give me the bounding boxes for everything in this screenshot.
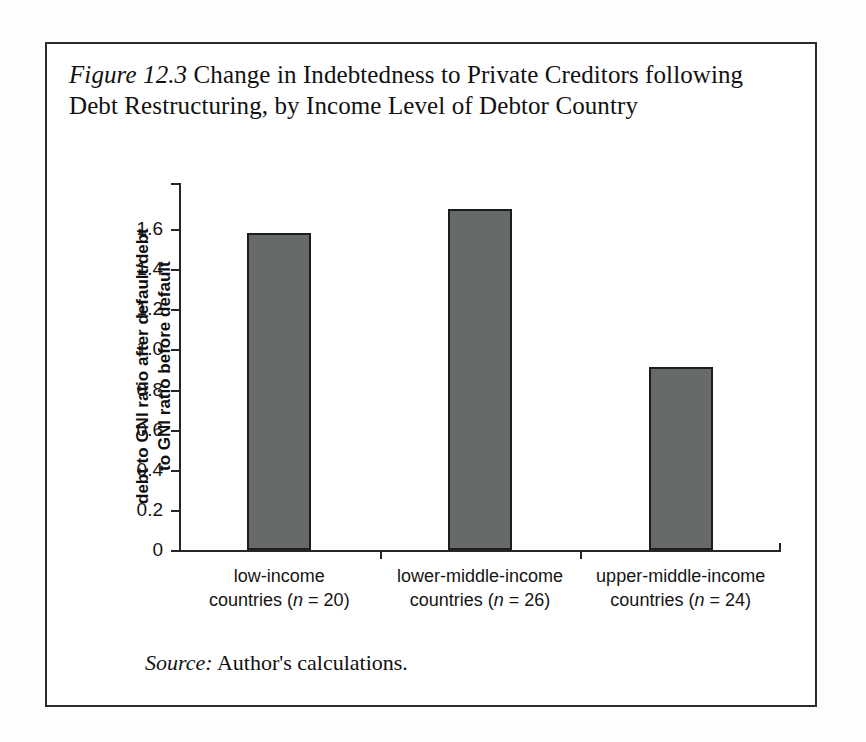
x-axis-line bbox=[179, 550, 781, 552]
source-label: Source: bbox=[145, 650, 213, 675]
y-axis-tick-label: 1.6 bbox=[93, 218, 163, 240]
scanned-page-background: Figure 12.3 Change in Indebtedness to Pr… bbox=[0, 0, 866, 742]
y-axis-tick-label: 0.2 bbox=[93, 499, 163, 521]
y-axis-tick-label: 1.2 bbox=[93, 298, 163, 320]
category-label-line-1: low-income bbox=[172, 564, 387, 588]
y-axis-tick bbox=[171, 470, 180, 472]
y-axis-tick bbox=[171, 269, 180, 271]
category-label-line-2: countries (n = 24) bbox=[573, 588, 788, 612]
x-axis-tick bbox=[580, 550, 582, 559]
bar bbox=[448, 209, 512, 550]
category-label-line-1: upper-middle-income bbox=[573, 564, 788, 588]
y-axis-tick-label: 0 bbox=[93, 539, 163, 561]
y-axis-tick-label: 1.0 bbox=[93, 338, 163, 360]
y-axis-tick bbox=[171, 349, 180, 351]
source-text: Author's calculations. bbox=[213, 650, 408, 675]
category-label-line-2: countries (n = 26) bbox=[373, 588, 588, 612]
x-axis-category-label: low-incomecountries (n = 20) bbox=[172, 564, 387, 613]
y-axis-tick bbox=[171, 430, 180, 432]
y-axis-title-line-1: debt to GNI ratio after default/debt bbox=[132, 201, 154, 531]
y-axis-line bbox=[179, 183, 181, 552]
x-axis-category-label: lower-middle-incomecountries (n = 26) bbox=[373, 564, 588, 613]
y-axis-tick-label: 0.6 bbox=[93, 419, 163, 441]
y-axis-tick bbox=[171, 229, 180, 231]
y-axis-tick-label: 0.4 bbox=[93, 459, 163, 481]
y-axis-tick bbox=[171, 390, 180, 392]
sample-size-symbol: n bbox=[293, 590, 303, 610]
y-axis-top-cap-tick bbox=[171, 183, 180, 185]
y-axis-title-line-2: to GNI ratio before default bbox=[154, 201, 176, 531]
source-note: Source: Author's calculations. bbox=[145, 650, 408, 676]
sample-size-symbol: n bbox=[694, 590, 704, 610]
y-axis-tick-label: 1.4 bbox=[93, 258, 163, 280]
y-axis-tick-label: 0.8 bbox=[93, 379, 163, 401]
y-axis-tick bbox=[171, 510, 180, 512]
x-axis-tick bbox=[380, 550, 382, 559]
sample-size-symbol: n bbox=[494, 590, 504, 610]
x-axis-category-label: upper-middle-incomecountries (n = 24) bbox=[573, 564, 788, 613]
figure-frame: Figure 12.3 Change in Indebtedness to Pr… bbox=[45, 42, 817, 707]
bar bbox=[649, 367, 713, 550]
category-label-line-2: countries (n = 20) bbox=[172, 588, 387, 612]
x-axis-right-cap-tick bbox=[779, 543, 781, 552]
bar bbox=[247, 233, 311, 550]
y-axis-title: debt to GNI ratio after default/debt to … bbox=[132, 201, 176, 531]
y-axis-tick bbox=[171, 309, 180, 311]
y-axis-tick bbox=[171, 550, 180, 552]
chart-plot-area: debt to GNI ratio after default/debt to … bbox=[47, 44, 819, 705]
category-label-line-1: lower-middle-income bbox=[373, 564, 588, 588]
